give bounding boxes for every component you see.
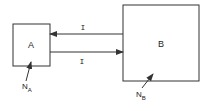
arrow-a-to-b: I xyxy=(50,52,123,66)
annotation-na: NA xyxy=(22,62,32,93)
box-a-label: A xyxy=(28,40,34,50)
box-b: B xyxy=(123,5,199,81)
arrow-top-label: I xyxy=(81,23,86,32)
arrow-b-to-a: I xyxy=(50,23,123,34)
diagram-canvas: A B I I NA NB xyxy=(0,0,210,111)
nb-sub: B xyxy=(142,95,146,101)
box-b-label: B xyxy=(158,39,164,49)
na-pointer-line xyxy=(26,62,31,81)
annotation-nb: NB xyxy=(136,74,153,101)
arrow-bottom-label: I xyxy=(80,57,85,66)
nb-label: NB xyxy=(136,90,146,101)
box-a: A xyxy=(13,24,50,66)
na-sub: A xyxy=(28,87,32,93)
na-label: NA xyxy=(22,82,32,93)
